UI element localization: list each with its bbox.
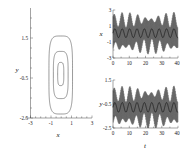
xt-xtick-label-2: 20 — [143, 60, 149, 66]
phase-xtick-label-1: -1 — [49, 120, 54, 126]
phase-y-axis-label: y — [14, 66, 19, 74]
yt-xtick-label-2: 20 — [143, 130, 149, 136]
phase-xtick-label-0: -3 — [28, 120, 33, 126]
yt-xtick-label-4: 40 — [174, 130, 180, 136]
xt-y-axis-label: x — [98, 30, 103, 38]
multi-panel-figure: 1.5 -0.5 -2.5 -3 -1 1 3 y x — [0, 0, 183, 153]
xt-ytick-label-2: 1 — [109, 23, 112, 29]
yt-ytick-label-1: -0.5 — [103, 101, 112, 107]
yt-x-axis-label: t — [144, 142, 147, 150]
yt-xtick-label-0: 0 — [112, 130, 115, 136]
phase-orbit-outer — [49, 36, 73, 114]
panel-phase-portrait: 1.5 -0.5 -2.5 -3 -1 1 3 y x — [14, 8, 93, 139]
yt-ytick-label-0: -2.5 — [103, 125, 112, 131]
yt-xtick-label-3: 30 — [159, 130, 165, 136]
xt-xtick-label-4: 40 — [174, 60, 180, 66]
phase-ytick-label-0: 1.5 — [22, 35, 29, 41]
yt-xtick-label-1: 10 — [127, 130, 133, 136]
phase-x-axis-label: x — [55, 131, 60, 139]
xt-ytick-label-1: -1 — [107, 39, 112, 45]
xt-x-ticks — [113, 56, 178, 58]
panel-y-vs-t: 1.5 -0.5 -2.5 0 10 20 30 40 y t — [98, 77, 180, 150]
phase-xtick-label-3: 3 — [91, 120, 94, 126]
xt-xtick-label-3: 30 — [159, 60, 165, 66]
xt-xtick-label-1: 10 — [127, 60, 133, 66]
phase-orbit-inner — [58, 62, 64, 85]
yt-ytick-label-2: 1.5 — [105, 77, 112, 83]
phase-ytick-label-1: -0.5 — [20, 75, 29, 81]
phase-ytick-label-2: -2.5 — [20, 115, 29, 121]
phase-orbit-middle — [53, 51, 68, 98]
xt-ytick-label-3: 3 — [109, 7, 112, 13]
yt-x-ticks — [113, 126, 178, 128]
xt-xtick-label-0: 0 — [112, 60, 115, 66]
phase-y-ticks — [31, 18, 34, 118]
phase-xtick-label-2: 1 — [70, 120, 73, 126]
panel-x-vs-t: 3 1 -1 -3 0 10 20 30 40 x — [98, 7, 180, 66]
phase-x-ticks — [31, 116, 93, 119]
